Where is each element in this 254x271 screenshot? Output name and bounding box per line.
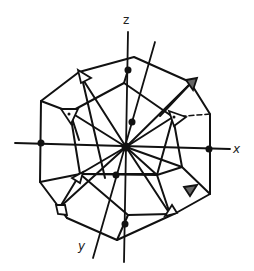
open-square-marker bbox=[56, 205, 67, 215]
node-dot bbox=[129, 119, 136, 126]
z-axis-label: z bbox=[123, 14, 129, 26]
node-dot bbox=[113, 172, 120, 179]
open-triangle-marker bbox=[78, 70, 91, 83]
node-dot bbox=[122, 221, 129, 228]
node-dot bbox=[206, 146, 213, 153]
node-dot bbox=[38, 140, 45, 147]
x-axis-label: x bbox=[233, 143, 240, 155]
triangle-marker bbox=[61, 109, 78, 124]
diagram-canvas bbox=[0, 0, 254, 271]
center-dot bbox=[122, 143, 131, 152]
node-dot bbox=[125, 67, 132, 74]
y-axis-label: y bbox=[78, 240, 85, 252]
shaded-triangle-marker bbox=[186, 78, 197, 90]
shaded-triangle-marker bbox=[184, 185, 197, 196]
